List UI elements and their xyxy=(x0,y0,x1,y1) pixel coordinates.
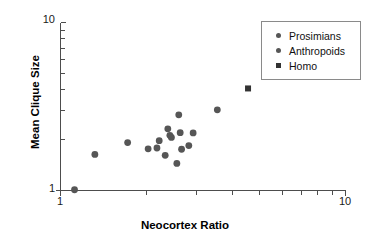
data-point-circle xyxy=(168,134,175,141)
legend-label: Anthropoids xyxy=(285,45,345,57)
legend-box: Prosimians Anthropoids Homo xyxy=(261,21,361,80)
legend-item-prosimians: Prosimians xyxy=(262,28,360,43)
data-point-circle xyxy=(185,142,192,149)
data-point-circle xyxy=(177,129,184,136)
data-point-circle xyxy=(124,139,131,146)
data-point-circle xyxy=(71,186,78,193)
data-point-circle xyxy=(164,125,171,132)
legend-circle-marker-icon xyxy=(271,48,285,53)
data-point-circle xyxy=(91,151,98,158)
data-point-circle xyxy=(154,145,161,152)
legend-label: Prosimians xyxy=(285,30,341,42)
legend-square-marker-icon xyxy=(271,63,285,68)
data-point-square xyxy=(245,85,251,91)
legend-label: Homo xyxy=(285,60,317,72)
data-point-circle xyxy=(190,130,197,137)
y-axis-tick-label-bottom: 1 xyxy=(33,183,55,194)
data-point-circle xyxy=(178,146,185,153)
scatter-plot-figure: 10 1 1 10 Mean Clique Size Neocortex Rat… xyxy=(0,0,368,246)
x-axis-title: Neocortex Ratio xyxy=(110,219,260,231)
x-axis-tick-label-left: 1 xyxy=(51,196,69,207)
legend-item-homo: Homo xyxy=(262,58,360,73)
data-point-circle xyxy=(162,152,169,159)
data-point-circle xyxy=(214,106,221,113)
legend-circle-marker-icon xyxy=(271,33,285,38)
data-point-circle xyxy=(175,111,182,118)
data-point-circle xyxy=(173,160,180,167)
data-point-circle xyxy=(145,145,152,152)
data-point-circle xyxy=(156,137,163,144)
legend-item-anthropoids: Anthropoids xyxy=(262,43,360,58)
y-axis-title: Mean Clique Size xyxy=(29,22,41,182)
x-axis-tick-label-right: 10 xyxy=(334,196,356,207)
data-points-group xyxy=(71,85,251,193)
